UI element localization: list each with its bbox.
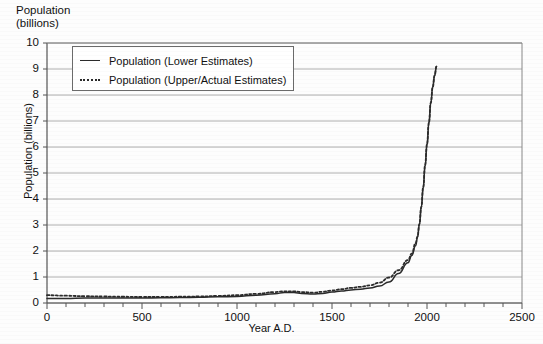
y-tick-label: 0 xyxy=(13,296,39,308)
x-tick-label: 500 xyxy=(119,311,165,323)
series-line-lower xyxy=(47,66,437,298)
x-tick-label: 2000 xyxy=(404,311,450,323)
legend-label-upper: Population (Upper/Actual Estimates) xyxy=(109,74,286,86)
series-line-upper xyxy=(47,66,437,297)
legend-item-upper: Population (Upper/Actual Estimates) xyxy=(79,70,287,89)
legend-solid-line-icon xyxy=(79,56,103,66)
y-tick-label: 7 xyxy=(13,114,39,126)
legend-item-lower: Population (Lower Estimates) xyxy=(79,51,287,70)
y-tick-label: 5 xyxy=(13,166,39,178)
y-tick-label: 9 xyxy=(13,62,39,74)
population-chart: Population (billions) Population (billio… xyxy=(0,0,543,344)
legend-dotted-line-icon xyxy=(79,75,103,85)
y-tick-label: 6 xyxy=(13,140,39,152)
x-tick-label: 1000 xyxy=(214,311,260,323)
x-tick-label: 2500 xyxy=(499,311,543,323)
y-tick-label: 4 xyxy=(13,192,39,204)
legend-label-lower: Population (Lower Estimates) xyxy=(109,55,253,67)
y-tick-label: 1 xyxy=(13,270,39,282)
y-tick-label: 8 xyxy=(13,88,39,100)
x-tick-label: 1500 xyxy=(309,311,355,323)
y-tick-label: 2 xyxy=(13,244,39,256)
y-tick-label: 3 xyxy=(13,218,39,230)
chart-legend: Population (Lower Estimates) Population … xyxy=(72,46,294,91)
y-tick-label: 10 xyxy=(13,36,39,48)
x-tick-label: 0 xyxy=(24,311,70,323)
